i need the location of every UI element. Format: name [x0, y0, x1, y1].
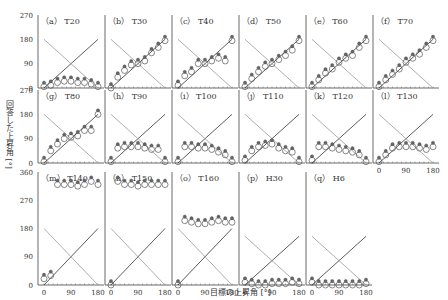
panel-l: （l） T130090180 [373, 90, 440, 175]
svg-text:180: 180 [91, 289, 104, 297]
y-axis-label: 回答した上昇角 [°] [3, 100, 13, 169]
svg-text:180: 180 [158, 289, 171, 297]
svg-text:0: 0 [176, 289, 180, 297]
x-axis-label: 目標の上昇角 [°] [210, 286, 271, 297]
panel-label: （o） T160 [175, 174, 219, 183]
panel-j: （j） T110 [239, 90, 305, 165]
panel-label: （f） T70 [376, 17, 413, 26]
panel-label: （g） T80 [41, 92, 80, 101]
svg-text:90: 90 [402, 167, 411, 175]
panel-label: （l） T130 [376, 92, 418, 101]
panel-label: （q） H6 [309, 174, 345, 183]
svg-text:360: 360 [20, 169, 33, 177]
svg-text:0: 0 [29, 160, 33, 168]
svg-text:0: 0 [310, 289, 314, 297]
panel-i: （i） T100 [172, 90, 238, 165]
panel-e: （e） T60 [306, 15, 372, 90]
panel-k: （k） T120 [306, 90, 372, 165]
svg-text:90: 90 [67, 289, 76, 297]
svg-text:270: 270 [20, 12, 33, 20]
svg-text:90: 90 [24, 60, 33, 68]
figure-grid: （a） T20090180270（b） T30（c） T40（d） T50（e）… [0, 0, 448, 300]
panel-label: （d） T50 [242, 17, 281, 26]
panel-d: （d） T50 [239, 15, 305, 90]
svg-text:180: 180 [292, 289, 305, 297]
svg-text:0: 0 [377, 167, 381, 175]
panel-m: （m） T140090180270360090180 [20, 169, 105, 298]
panel-label: （p） H30 [242, 174, 283, 183]
panel-h: （h） T90 [105, 90, 171, 165]
panel-label: （h） T90 [108, 92, 147, 101]
panel-label: （a） T20 [41, 17, 80, 26]
svg-text:270: 270 [20, 87, 33, 95]
panel-label: （k） T120 [309, 92, 353, 101]
svg-text:270: 270 [20, 197, 33, 205]
svg-text:90: 90 [335, 289, 344, 297]
panel-a: （a） T20090180270 [20, 12, 104, 93]
svg-text:0: 0 [109, 289, 113, 297]
svg-text:90: 90 [134, 289, 143, 297]
panel-n: （n） T150090180 [105, 172, 172, 297]
panel-q: （q） H6090180 [306, 172, 373, 297]
panel-label: （i） T100 [175, 92, 217, 101]
panel-label: （b） T30 [108, 17, 147, 26]
panel-b: （b） T30 [105, 15, 171, 91]
svg-text:90: 90 [24, 253, 33, 261]
panel-o: （o） T160090180 [172, 172, 239, 297]
panel-label: （j） T110 [242, 92, 284, 101]
panel-g: （g） T80090180270 [20, 87, 104, 168]
panel-f: （f） T70 [373, 15, 439, 90]
panel-label: （c） T40 [175, 17, 214, 26]
panel-label: （e） T60 [309, 17, 348, 26]
svg-text:90: 90 [24, 135, 33, 143]
svg-text:180: 180 [20, 225, 33, 233]
svg-text:0: 0 [29, 282, 33, 290]
panel-p: （p） H30090180 [239, 172, 306, 297]
svg-text:0: 0 [42, 289, 46, 297]
svg-text:180: 180 [426, 167, 439, 175]
svg-text:180: 180 [20, 36, 33, 44]
svg-text:180: 180 [20, 111, 33, 119]
svg-text:90: 90 [201, 289, 210, 297]
panel-c: （c） T40 [172, 15, 238, 88]
svg-text:180: 180 [359, 289, 372, 297]
